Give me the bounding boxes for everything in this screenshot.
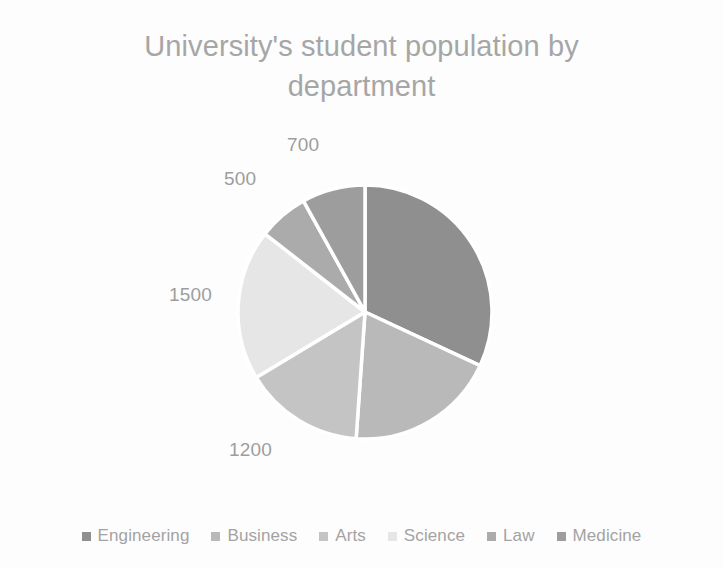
legend-item-label: Medicine [573, 526, 642, 546]
chart-title: University's student population by depar… [52, 26, 672, 106]
legend-item-label: Law [503, 526, 535, 546]
legend-item-label: Business [227, 526, 297, 546]
pie-slices-group [238, 185, 492, 439]
legend-swatch-icon [82, 532, 91, 541]
legend-item-medicine[interactable]: Medicine [557, 526, 642, 546]
data-label-science: 1500 [169, 284, 212, 306]
legend-swatch-icon [557, 532, 566, 541]
legend-item-label: Engineering [98, 526, 190, 546]
legend-item-business[interactable]: Business [211, 526, 297, 546]
legend-swatch-icon [388, 532, 397, 541]
legend-item-label: Arts [335, 526, 366, 546]
legend-swatch-icon [487, 532, 496, 541]
legend-item-law[interactable]: Law [487, 526, 535, 546]
data-label-medicine: 700 [287, 134, 319, 156]
data-label-law: 500 [224, 168, 256, 190]
pie-plot-area: 700 500 1500 1200 [0, 120, 723, 500]
legend-swatch-icon [211, 532, 220, 541]
chart-frame: University's student population by depar… [0, 0, 723, 568]
legend-item-engineering[interactable]: Engineering [82, 526, 190, 546]
data-label-arts: 1200 [229, 439, 272, 461]
legend-item-science[interactable]: Science [388, 526, 465, 546]
pie-chart-graphic [0, 120, 723, 500]
legend-item-arts[interactable]: Arts [319, 526, 366, 546]
chart-legend: EngineeringBusinessArtsScienceLawMedicin… [0, 526, 723, 546]
legend-item-label: Science [404, 526, 465, 546]
legend-swatch-icon [319, 532, 328, 541]
